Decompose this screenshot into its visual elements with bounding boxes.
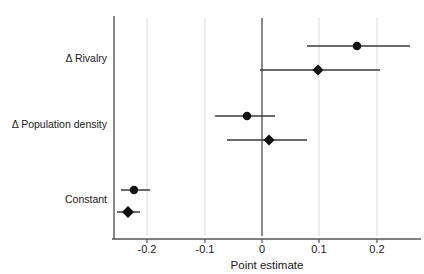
x-tick-label-0.2: 0.2 bbox=[369, 243, 384, 255]
y-axis-label-population-density: Δ Population density bbox=[12, 118, 108, 130]
point-estimate-marker-circle bbox=[130, 186, 138, 194]
plot-svg: Δ Rivalry Δ Population density Constant … bbox=[0, 0, 424, 274]
x-tick-label--0.1: -0.1 bbox=[196, 243, 215, 255]
estimate-row-constant-model-2 bbox=[117, 206, 140, 218]
estimate-row-rivalry-model-1 bbox=[307, 42, 410, 51]
coefficient-plot: Δ Rivalry Δ Population density Constant … bbox=[0, 0, 424, 274]
point-estimate-marker-diamond bbox=[312, 64, 323, 75]
point-estimate-marker-diamond bbox=[122, 206, 134, 218]
point-estimate-marker-circle bbox=[243, 112, 251, 120]
estimate-row-population-density-model-2 bbox=[227, 134, 307, 145]
x-tick-label--0.2: -0.2 bbox=[138, 243, 157, 255]
y-axis-label-constant: Constant bbox=[65, 193, 107, 205]
x-axis-title: Point estimate bbox=[231, 259, 304, 271]
estimate-row-population-density-model-1 bbox=[215, 112, 275, 120]
point-estimate-marker-diamond bbox=[263, 134, 274, 145]
x-tick-label-0: 0 bbox=[259, 243, 265, 255]
y-axis-label-rivalry: Δ Rivalry bbox=[66, 52, 108, 64]
x-tick-label-0.1: 0.1 bbox=[311, 243, 326, 255]
point-estimate-marker-circle bbox=[353, 42, 362, 51]
estimate-row-rivalry-model-2 bbox=[260, 64, 380, 75]
estimate-row-constant-model-1 bbox=[121, 186, 150, 194]
